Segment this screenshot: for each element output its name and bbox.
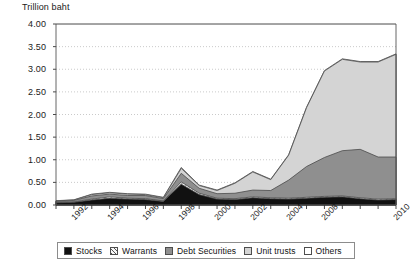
y-axis-tick-label: 1.00 bbox=[28, 155, 46, 165]
legend-swatch-icon bbox=[64, 247, 72, 255]
chart-axis-unit-title: Trillion baht bbox=[22, 2, 70, 12]
y-axis-tick-label: 4.00 bbox=[28, 19, 46, 29]
y-axis-tick-label: 3.50 bbox=[28, 42, 46, 52]
legend-entry-others: Others bbox=[304, 246, 342, 256]
legend-entry-debt-securities: Debt Securities bbox=[165, 246, 236, 256]
legend-swatch-icon bbox=[165, 247, 173, 255]
y-axis-tick-label: 3.00 bbox=[28, 64, 46, 74]
legend-swatch-icon bbox=[110, 247, 118, 255]
y-axis-tick-labels: 0.000.501.001.502.002.503.003.504.00 bbox=[0, 14, 56, 210]
y-axis-tick-label: 0.00 bbox=[28, 200, 46, 210]
legend-label: Others bbox=[316, 246, 342, 256]
plot-canvas bbox=[0, 14, 408, 210]
legend-entry-stocks: Stocks bbox=[64, 246, 102, 256]
legend-label: Unit trusts bbox=[256, 246, 295, 256]
x-axis-tick-labels: 199219941996199820002002200420082010 bbox=[0, 210, 408, 240]
plot-area-wrapper: 0.000.501.001.502.002.503.003.504.00 bbox=[0, 14, 408, 210]
y-axis-tick-label: 0.50 bbox=[28, 177, 46, 187]
legend-label: Warrants bbox=[122, 246, 157, 256]
legend-entry-warrants: Warrants bbox=[110, 246, 157, 256]
y-axis-tick-label: 2.50 bbox=[28, 87, 46, 97]
legend-entry-unit-trusts: Unit trusts bbox=[244, 246, 295, 256]
legend-swatch-icon bbox=[304, 247, 312, 255]
chart-legend: StocksWarrantsDebt SecuritiesUnit trusts… bbox=[57, 242, 355, 259]
legend-swatch-icon bbox=[244, 247, 252, 255]
legend-label: Debt Securities bbox=[177, 246, 236, 256]
y-axis-tick-label: 1.50 bbox=[28, 132, 46, 142]
y-axis-tick-label: 2.00 bbox=[28, 110, 46, 120]
legend-label: Stocks bbox=[76, 246, 102, 256]
